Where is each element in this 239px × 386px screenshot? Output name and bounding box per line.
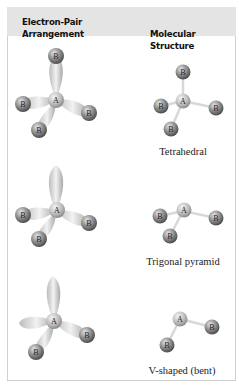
atom-label-b: B (20, 100, 25, 109)
structure-label-trigonal-pyramid: Trigonal pyramid (123, 256, 239, 267)
atom-label-b: B (20, 211, 25, 220)
atom-label-a: A (181, 206, 187, 215)
atom-label-a: A (53, 96, 59, 105)
atom-label-b: B (86, 219, 91, 228)
atom-label-b: B (86, 109, 91, 118)
atom-label-b: B (157, 212, 162, 221)
atom-label-a: A (180, 97, 186, 106)
atom-label-b: B (213, 214, 218, 223)
diagram-svg: B B B B A B B B B A B B B A (0, 0, 239, 386)
structure-label-v-shaped: V-shaped (bent) (122, 365, 239, 376)
atom-label-b: B (33, 348, 38, 357)
atom-label-b: B (180, 68, 185, 77)
atom-label-b: B (36, 126, 41, 135)
atom-label-a: A (54, 206, 60, 215)
atom-label-b: B (167, 232, 172, 241)
structure-label-tetrahedral: Tetrahedral (123, 146, 239, 157)
atom-label-a: A (51, 317, 57, 326)
atom-label-b: B (213, 104, 218, 113)
atom-label-a: A (177, 315, 183, 324)
atom-label-b: B (164, 341, 169, 350)
atom-label-b: B (53, 52, 58, 61)
structure-row2: B B B A (153, 203, 224, 244)
arrangement-row3: B B A (19, 276, 95, 360)
structure-row3: B B A (160, 312, 220, 353)
atom-label-b: B (158, 102, 163, 111)
atom-label-b: B (36, 235, 41, 244)
atom-label-b: B (168, 125, 173, 134)
atom-label-b: B (209, 323, 214, 332)
arrangement-row1: B B B B A (15, 48, 97, 138)
structure-row1: B B B B A (154, 65, 224, 137)
atom-label-b: B (84, 331, 89, 340)
arrangement-row2: B B B A (15, 165, 97, 247)
